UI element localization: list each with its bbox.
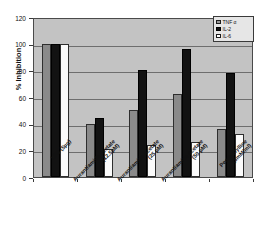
x-axis-tick-mark	[121, 179, 122, 182]
legend-item: IL-2	[216, 26, 251, 33]
x-axis-label: Aurantiamide acetate(25 µM)	[121, 179, 165, 237]
x-axis-tick-mark	[33, 179, 34, 182]
x-axis-tick-mark	[165, 179, 166, 182]
x-axis-label-group: LPS (5µg)Aurantiamide acetate(12.5µM)Aur…	[33, 179, 253, 237]
x-axis-label: Aurantiamide acetate(50 µM)	[165, 179, 209, 237]
legend-label: IL-6	[223, 33, 232, 39]
legend-swatch-icon	[216, 34, 221, 39]
y-axis-tick-label: 80	[0, 68, 26, 75]
x-axis-label: Pentoxifylline(5mM/ml)	[209, 179, 253, 237]
x-axis-label: LPS (5µg)	[33, 179, 77, 237]
legend-label: IL-2	[223, 26, 232, 32]
x-axis-label: Aurantiamide acetate(12.5µM)	[77, 179, 121, 237]
x-axis-tick-mark	[253, 179, 254, 182]
legend-item: TNF α	[216, 19, 251, 26]
legend-item: IL-6	[216, 33, 251, 40]
chart-legend: TNF αIL-2IL-6	[213, 16, 254, 42]
y-axis-tick-label: 0	[0, 175, 26, 182]
y-axis-tick-label: 100	[0, 41, 26, 48]
legend-label: TNF α	[223, 19, 237, 25]
y-axis-tick-label: 120	[0, 15, 26, 22]
legend-swatch-icon	[216, 20, 221, 25]
y-axis-tick-label: 20	[0, 148, 26, 155]
y-axis-tick-label: 60	[0, 95, 26, 102]
bar-il-6	[60, 44, 69, 177]
bar-chart-figure: % Inhibition 120100806040200 TNF αIL-2IL…	[0, 0, 258, 237]
x-axis-tick-mark	[77, 179, 78, 182]
legend-swatch-icon	[216, 27, 221, 32]
y-axis-tick-label: 40	[0, 121, 26, 128]
x-axis-tick-mark	[209, 179, 210, 182]
